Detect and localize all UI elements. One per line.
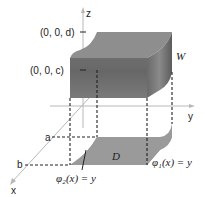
- x-mark-a-label: a: [45, 132, 51, 143]
- region-d-label: D: [111, 150, 120, 162]
- y-axis-arrow-icon: [189, 104, 195, 108]
- z-axis-arrow-icon: [81, 7, 85, 13]
- z-axis-label: z: [86, 8, 91, 19]
- x-mark-b-label: b: [17, 159, 23, 170]
- phi2-label: φ₂(x) = y: [56, 172, 96, 185]
- z-mark-d-label: (0, 0, d): [40, 27, 74, 38]
- solid-w-label: W: [176, 50, 186, 62]
- diagram-canvas: z y x (0, 0, d) (0, 0, c) a b W D φ₁(x) …: [0, 0, 205, 197]
- z-mark-c-label: (0, 0, c): [30, 65, 64, 76]
- x-axis-label: x: [11, 185, 16, 196]
- phi1-label: φ₁(x) = y: [152, 156, 192, 169]
- x-axis: [12, 86, 100, 182]
- solid-w: [70, 32, 172, 98]
- y-axis-label: y: [188, 111, 193, 122]
